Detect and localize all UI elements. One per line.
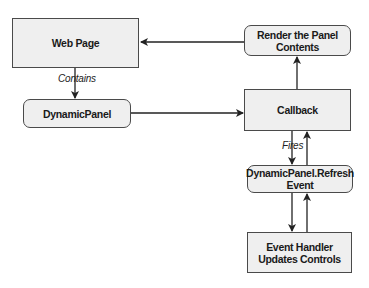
- node-refresh-event-line1: DynamicPanel.Refresh: [246, 167, 354, 179]
- node-render-panel-line1: Render the Panel: [257, 29, 338, 41]
- node-callback: Callback: [244, 89, 351, 131]
- node-callback-label: Callback: [277, 104, 318, 116]
- node-event-handler: Event Handler Updates Controls: [247, 232, 352, 273]
- node-web-page: Web Page: [12, 18, 139, 68]
- node-refresh-event-line2: Event: [246, 179, 354, 191]
- node-dynamic-panel: DynamicPanel: [23, 99, 131, 128]
- node-refresh-event: DynamicPanel.Refresh Event: [247, 165, 353, 193]
- node-dynamic-panel-label: DynamicPanel: [43, 108, 111, 120]
- node-render-panel: Render the Panel Contents: [244, 25, 351, 56]
- node-event-handler-line1: Event Handler: [258, 241, 341, 253]
- node-web-page-label: Web Page: [52, 37, 100, 49]
- node-event-handler-line2: Updates Controls: [258, 253, 341, 265]
- edge-label-contains: Contains: [58, 73, 96, 84]
- node-render-panel-line2: Contents: [257, 41, 338, 53]
- edge-label-fires: Fires: [282, 140, 303, 151]
